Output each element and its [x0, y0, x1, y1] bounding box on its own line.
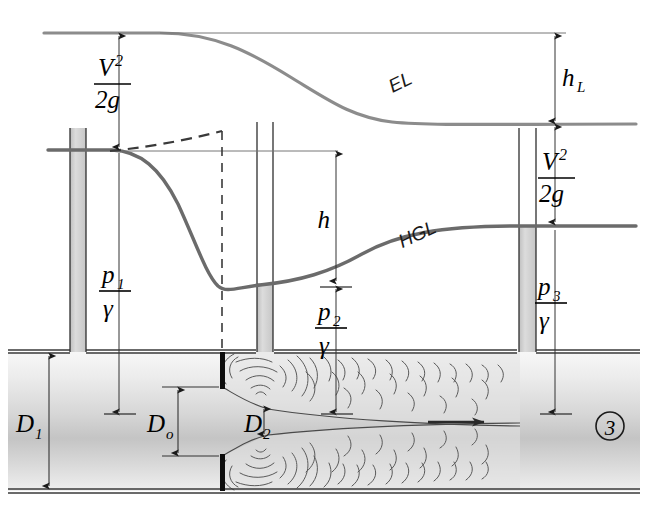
label-velocity-head-downstream: V 2 2g	[538, 146, 575, 207]
p2-subscript: 2	[333, 313, 341, 329]
v2-2g-right-numerator: V	[542, 148, 560, 175]
D2-base: D	[243, 410, 262, 437]
hydraulic-grade-line-label: HGL	[395, 216, 439, 252]
label-h: h	[318, 206, 331, 233]
label-head-loss: h L	[562, 64, 585, 95]
hL-subscript: L	[576, 79, 585, 95]
label-velocity-head-upstream: V 2 2g	[94, 52, 131, 113]
p1-denominator: γ	[103, 295, 114, 322]
hL-base: h	[562, 64, 575, 91]
Do-subscript: o	[166, 426, 174, 442]
p2-denominator: γ	[319, 332, 330, 359]
p2-numerator: p	[316, 298, 331, 325]
section-3-label: 3	[604, 416, 616, 440]
v2-2g-denominator: 2g	[95, 86, 120, 113]
piezometer-tube-3	[519, 128, 536, 352]
piezometer-tube-2	[257, 122, 273, 352]
v2-2g-right-exponent: 2	[559, 146, 567, 163]
diagram-canvas: EL HGL V 2 2g p 1 γ h	[0, 0, 648, 524]
D1-subscript: 1	[35, 426, 43, 442]
v2-2g-numerator: V	[98, 54, 116, 81]
v2-2g-exponent: 2	[115, 52, 123, 69]
p3-subscript: 3	[552, 288, 561, 304]
dashed-recovery-curve	[110, 131, 222, 151]
energy-line	[44, 33, 636, 125]
energy-line-label: EL	[385, 68, 415, 97]
piezometer-tube-1	[70, 128, 86, 352]
orifice-meter-energy-diagram: EL HGL V 2 2g p 1 γ h	[0, 0, 648, 524]
p3-denominator: γ	[539, 307, 550, 334]
label-pressure-head-1: p 1 γ	[99, 261, 131, 322]
Do-base: D	[146, 410, 165, 437]
v2-2g-right-denominator: 2g	[539, 180, 564, 207]
p1-subscript: 1	[117, 276, 125, 292]
label-pressure-head-3: p 3 γ	[535, 273, 567, 334]
p1-numerator: p	[100, 261, 115, 288]
p3-numerator: p	[536, 273, 551, 300]
D1-base: D	[15, 410, 34, 437]
D2-subscript: 2	[263, 426, 271, 442]
